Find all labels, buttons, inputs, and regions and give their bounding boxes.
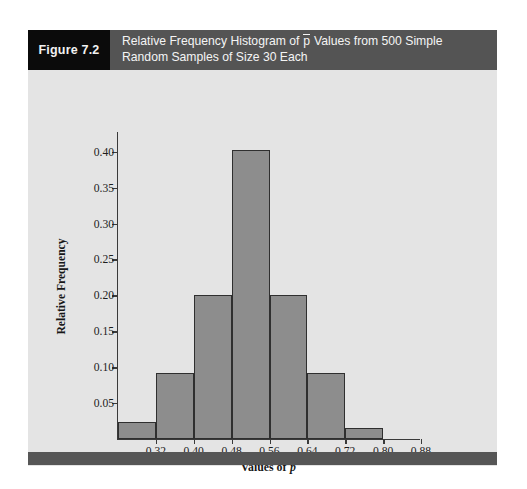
histogram-bar — [345, 428, 383, 439]
x-tick-mark — [383, 439, 384, 444]
bottom-accent-bar — [28, 452, 497, 465]
y-tick-label: 0.25 — [94, 253, 114, 266]
y-axis-title: Relative Frequency — [54, 132, 68, 440]
y-tick-label: 0.05 — [94, 397, 114, 410]
plot-area: 0.050.100.150.200.250.300.350.40 0.320.4… — [117, 132, 420, 440]
histogram-bar — [156, 373, 194, 439]
y-axis-title-label: Relative Frequency — [55, 238, 68, 334]
y-tick-label: 0.15 — [94, 325, 114, 338]
histogram-bar — [270, 295, 308, 439]
histogram-bar — [118, 422, 156, 439]
x-tick-mark — [232, 439, 233, 444]
x-tick-mark — [307, 439, 308, 444]
histogram-chart: Relative Frequency 0.050.100.150.200.250… — [28, 70, 497, 466]
x-tick-mark — [421, 439, 422, 444]
p-bar-symbol: p — [303, 34, 311, 50]
x-tick-mark — [270, 439, 271, 444]
histogram-bar — [194, 295, 232, 439]
figure-caption-line-2: Random Samples of Size 30 Each — [122, 50, 497, 66]
figure-caption-band: Relative Frequency Histogram of p Values… — [110, 30, 497, 70]
figure-panel: Figure 7.2 Relative Frequency Histogram … — [28, 30, 497, 466]
figure-header: Figure 7.2 Relative Frequency Histogram … — [28, 30, 497, 70]
y-tick-label: 0.20 — [94, 289, 114, 302]
histogram-bar — [232, 150, 270, 439]
y-tick-label: 0.40 — [94, 145, 114, 158]
caption-text-after-pbar: Values from 500 Simple — [311, 34, 443, 48]
figure-number-label: Figure 7.2 — [38, 43, 99, 57]
x-tick-mark — [194, 439, 195, 444]
figure-caption-line-1: Relative Frequency Histogram of p Values… — [122, 34, 497, 50]
x-tick-mark — [156, 439, 157, 444]
x-tick-mark — [345, 439, 346, 444]
figure-number-box: Figure 7.2 — [28, 30, 110, 70]
histogram-bar — [307, 373, 345, 439]
caption-text-before-pbar: Relative Frequency Histogram of — [122, 34, 303, 48]
y-tick-label: 0.35 — [94, 181, 114, 194]
y-tick-label: 0.30 — [94, 217, 114, 230]
bars-layer — [118, 132, 421, 439]
y-tick-label: 0.10 — [94, 361, 114, 374]
